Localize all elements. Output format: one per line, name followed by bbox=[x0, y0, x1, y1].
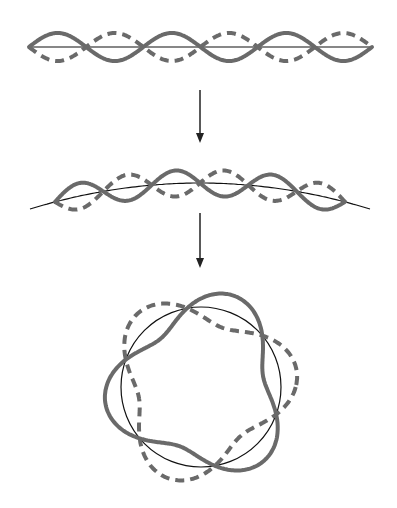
circle-stage bbox=[105, 294, 297, 481]
straight-string-stage bbox=[29, 33, 372, 61]
bent-string-stage bbox=[30, 171, 370, 210]
diagram-canvas bbox=[0, 0, 397, 508]
arrow-down-1 bbox=[196, 90, 204, 143]
arrow-down-2 bbox=[196, 213, 204, 268]
solid-wave bbox=[105, 294, 278, 471]
arrowhead-icon bbox=[196, 258, 204, 268]
arrowhead-icon bbox=[196, 133, 204, 143]
curved-string-line bbox=[30, 183, 370, 209]
circular-string bbox=[121, 307, 281, 467]
